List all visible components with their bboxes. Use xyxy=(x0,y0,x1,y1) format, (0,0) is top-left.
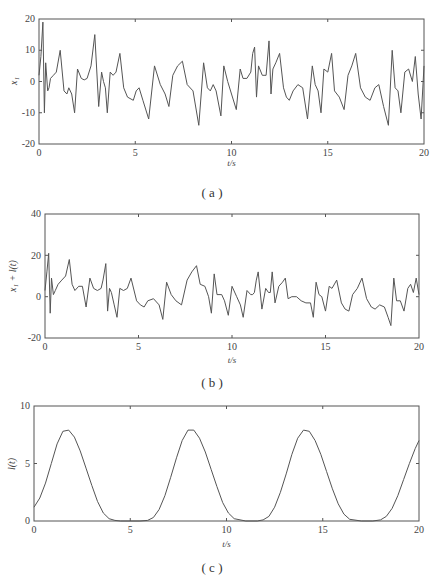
panel-b-xtick-label: 5 xyxy=(136,341,141,352)
panel-c-ytick-label: 10 xyxy=(20,400,30,411)
panel-a-xtick-label: 20 xyxy=(419,147,429,158)
panel-c-y-axis-label: l(t) xyxy=(6,457,18,470)
panel-c-ytick-label: 5 xyxy=(25,458,30,469)
panel-b-xtick-label: 15 xyxy=(321,341,331,352)
panel-c-xtick-label: 15 xyxy=(318,524,328,535)
panel-a-ytick-label: 0 xyxy=(30,76,35,87)
panel-c-ticks xyxy=(34,406,419,521)
panel-c-x-axis-label: t/s xyxy=(222,539,231,549)
panel-a-caption: ( a ) xyxy=(202,185,223,200)
panel-a-ytick-label: -10 xyxy=(22,107,35,118)
panel-b-ytick-label: 0 xyxy=(36,291,41,302)
figure: 20 10 0 -10 -20 0 5 10 15 20 t/s x₁ ( a … xyxy=(0,0,433,579)
panel-c-frame xyxy=(34,406,419,521)
panel-a-x1-curve xyxy=(39,22,424,125)
panel-b-xtick-label: 0 xyxy=(43,341,48,352)
panel-a-y-axis-label: x₁ xyxy=(8,77,19,86)
panel-b-ytick-label: 20 xyxy=(31,250,41,261)
panel-b-x-axis-label: t/s xyxy=(228,355,237,365)
panel-a-frame xyxy=(39,19,424,144)
panel-c-l-curve xyxy=(34,430,419,521)
panel-a-ytick-label: 20 xyxy=(25,13,35,24)
panel-a-xtick-label: 10 xyxy=(227,147,237,158)
panel-a-x-axis-label: t/s xyxy=(227,158,236,168)
panel-a: 20 10 0 -10 -20 0 5 10 15 20 t/s x₁ ( a … xyxy=(8,13,429,200)
panel-b-caption: ( b ) xyxy=(201,375,223,390)
panel-a-ytick-label: 10 xyxy=(25,44,35,55)
panel-a-ticks xyxy=(39,19,424,144)
panel-b-y-axis-label: x₁ + l(t) xyxy=(7,259,19,293)
panel-a-ytick-label: -20 xyxy=(22,138,35,149)
panel-b: 40 20 0 -20 0 5 10 15 20 t/s x₁ + l(t) (… xyxy=(7,208,424,390)
panel-c-xtick-label: 0 xyxy=(32,524,37,535)
panel-b-frame xyxy=(45,214,419,338)
panel-b-x1-plus-l-curve xyxy=(45,253,419,325)
panel-b-ytick-label: -20 xyxy=(28,332,41,343)
panel-c-xtick-label: 20 xyxy=(414,524,424,535)
panel-a-xtick-label: 15 xyxy=(323,147,333,158)
panel-b-ytick-label: 40 xyxy=(31,208,41,219)
panel-c-xtick-label: 10 xyxy=(222,524,232,535)
panel-b-ticks xyxy=(45,214,419,338)
panel-c-xtick-label: 5 xyxy=(128,524,133,535)
panel-c: 10 5 0 0 5 10 15 20 t/s l(t) ( c ) xyxy=(6,400,424,575)
panel-a-xtick-label: 5 xyxy=(133,147,138,158)
panel-c-ytick-label: 0 xyxy=(25,515,30,526)
panel-c-caption: ( c ) xyxy=(202,560,223,575)
panel-b-xtick-label: 10 xyxy=(227,341,237,352)
panel-b-xtick-label: 20 xyxy=(414,341,424,352)
panel-a-xtick-label: 0 xyxy=(37,147,42,158)
